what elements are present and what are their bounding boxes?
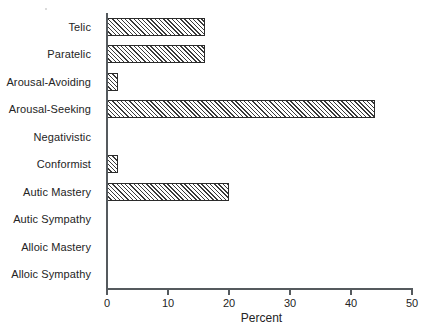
- x-axis-tick-label: 0: [92, 297, 122, 310]
- x-axis-tick: [411, 289, 413, 295]
- x-axis-tick: [350, 289, 352, 295]
- y-axis-label: Paratelic: [47, 48, 91, 60]
- y-axis-label: Alloic Sympathy: [11, 268, 91, 280]
- bar: [107, 155, 118, 173]
- x-axis-tick-label: 40: [336, 297, 366, 310]
- y-axis-category-labels: TelicParatelicArousal-AvoidingArousal-Se…: [0, 0, 101, 332]
- x-axis-tick: [289, 289, 291, 295]
- y-axis-label: Conformist: [37, 158, 91, 170]
- bar: [107, 45, 205, 63]
- plot-area: [107, 13, 412, 288]
- y-axis-label: Telic: [68, 21, 91, 33]
- x-axis-title: Percent: [0, 311, 435, 325]
- bar: [107, 73, 118, 91]
- x-axis-tick-label: 10: [153, 297, 183, 310]
- y-axis-label: Arousal-Avoiding: [6, 76, 91, 88]
- x-axis-tick: [106, 289, 108, 295]
- x-axis-line: [106, 288, 413, 290]
- bar: [107, 183, 229, 201]
- y-axis-label: Negativistic: [34, 131, 91, 143]
- y-axis-label: Arousal-Seeking: [9, 103, 91, 115]
- y-axis-label: Autic Sympathy: [13, 213, 91, 225]
- x-axis-tick-label: 30: [275, 297, 305, 310]
- x-axis-tick-label: 50: [397, 297, 427, 310]
- x-axis-tick-label: 20: [214, 297, 244, 310]
- y-axis-line: [106, 13, 108, 289]
- y-axis-label: Autic Mastery: [23, 186, 91, 198]
- bar: [107, 18, 205, 36]
- x-axis-tick: [167, 289, 169, 295]
- bar-chart: TelicParatelicArousal-AvoidingArousal-Se…: [0, 0, 435, 332]
- x-axis-tick: [228, 289, 230, 295]
- y-axis-label: Alloic Mastery: [21, 241, 91, 253]
- bar: [107, 100, 375, 118]
